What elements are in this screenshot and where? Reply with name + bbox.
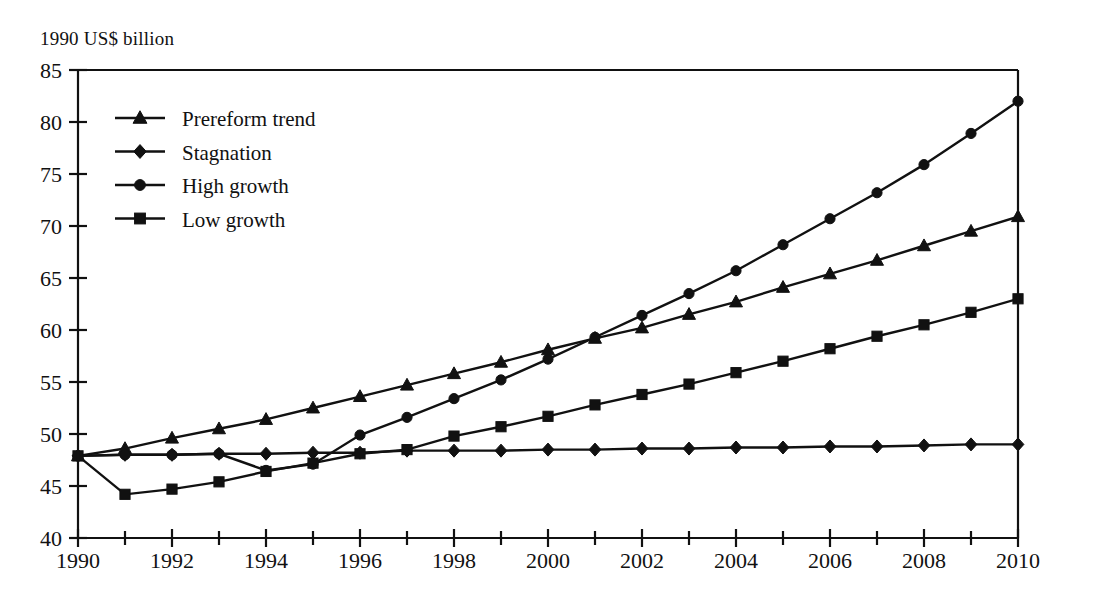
legend-item-prereform-trend[interactable]: Prereform trend — [115, 107, 316, 131]
data-point-square-marker-icon — [355, 449, 365, 459]
legend-label: Prereform trend — [182, 107, 316, 131]
data-point-square-marker-icon — [684, 379, 694, 389]
axes: 4045505560657075808519901992199419961998… — [40, 58, 1040, 573]
y-tick-label: 45 — [40, 474, 62, 499]
data-point-diamond-marker-icon — [683, 442, 695, 455]
data-point-square-marker-icon — [167, 484, 177, 494]
data-point-diamond-marker-icon — [495, 444, 507, 457]
data-point-circle-marker-icon — [449, 394, 459, 404]
y-tick-label: 70 — [40, 214, 62, 239]
x-tick-label: 2004 — [714, 548, 758, 573]
data-point-diamond-marker-icon — [871, 440, 883, 453]
data-point-diamond-marker-icon — [777, 441, 789, 454]
data-point-circle-marker-icon — [214, 449, 224, 459]
data-point-square-marker-icon — [731, 368, 741, 378]
data-point-circle-marker-icon — [731, 266, 741, 276]
data-point-square-marker-icon — [402, 445, 412, 455]
x-tick-label: 2006 — [808, 548, 852, 573]
chart-svg: 4045505560657075808519901992199419961998… — [0, 0, 1097, 602]
data-point-diamond-marker-icon — [448, 444, 460, 457]
data-point-square-marker-icon — [919, 320, 929, 330]
data-point-square-marker-icon — [120, 489, 130, 499]
data-point-circle-marker-icon — [872, 188, 882, 198]
data-point-diamond-marker-icon — [636, 442, 648, 455]
series-low-growth — [73, 294, 1023, 500]
circle-marker-icon — [135, 180, 146, 191]
legend-item-low-growth[interactable]: Low growth — [115, 208, 286, 232]
y-tick-label: 65 — [40, 266, 62, 291]
x-tick-label: 1992 — [150, 548, 194, 573]
square-marker-icon — [135, 213, 146, 224]
data-point-diamond-marker-icon — [918, 439, 930, 452]
legend-label: Low growth — [182, 208, 286, 232]
x-tick-label: 2000 — [526, 548, 570, 573]
data-point-square-marker-icon — [778, 356, 788, 366]
data-point-diamond-marker-icon — [589, 443, 601, 456]
data-point-circle-marker-icon — [120, 450, 130, 460]
data-point-square-marker-icon — [966, 307, 976, 317]
data-point-square-marker-icon — [825, 344, 835, 354]
data-point-square-marker-icon — [308, 458, 318, 468]
x-tick-label: 2008 — [902, 548, 946, 573]
x-tick-label: 2010 — [996, 548, 1040, 573]
legend-item-stagnation[interactable]: Stagnation — [115, 141, 272, 165]
data-point-circle-marker-icon — [167, 450, 177, 460]
data-point-diamond-marker-icon — [965, 438, 977, 451]
data-point-square-marker-icon — [872, 331, 882, 341]
data-point-circle-marker-icon — [825, 214, 835, 224]
y-tick-label: 55 — [40, 370, 62, 395]
data-point-diamond-marker-icon — [260, 447, 272, 460]
data-point-diamond-marker-icon — [730, 441, 742, 454]
legend-item-high-growth[interactable]: High growth — [115, 174, 289, 198]
data-point-diamond-marker-icon — [307, 446, 319, 459]
legend-label: Stagnation — [182, 141, 272, 165]
data-point-circle-marker-icon — [966, 128, 976, 138]
x-tick-label: 1990 — [56, 548, 100, 573]
y-tick-label: 75 — [40, 162, 62, 187]
data-point-square-marker-icon — [590, 400, 600, 410]
legend-label: High growth — [182, 174, 289, 198]
data-point-circle-marker-icon — [496, 375, 506, 385]
y-tick-label: 50 — [40, 422, 62, 447]
data-point-circle-marker-icon — [637, 310, 647, 320]
data-point-circle-marker-icon — [402, 412, 412, 422]
chart-container: 1990 US$ billion 40455055606570758085199… — [0, 0, 1097, 602]
series-line — [78, 299, 1018, 495]
data-point-square-marker-icon — [496, 422, 506, 432]
data-point-diamond-marker-icon — [542, 443, 554, 456]
data-point-circle-marker-icon — [684, 289, 694, 299]
data-point-square-marker-icon — [214, 477, 224, 487]
data-point-circle-marker-icon — [543, 354, 553, 364]
x-tick-label: 1996 — [338, 548, 382, 573]
data-point-square-marker-icon — [261, 466, 271, 476]
x-tick-label: 1998 — [432, 548, 476, 573]
y-tick-label: 80 — [40, 110, 62, 135]
data-point-diamond-marker-icon — [824, 440, 836, 453]
chart-legend: Prereform trendStagnationHigh growthLow … — [115, 107, 316, 232]
data-point-square-marker-icon — [543, 411, 553, 421]
x-tick-label: 1994 — [244, 548, 288, 573]
data-point-square-marker-icon — [637, 389, 647, 399]
data-point-circle-marker-icon — [919, 160, 929, 170]
x-tick-label: 2002 — [620, 548, 664, 573]
data-point-circle-marker-icon — [778, 240, 788, 250]
data-point-square-marker-icon — [449, 431, 459, 441]
data-point-circle-marker-icon — [355, 430, 365, 440]
data-point-circle-marker-icon — [590, 332, 600, 342]
diamond-marker-icon — [134, 145, 147, 159]
y-tick-label: 60 — [40, 318, 62, 343]
y-tick-label: 85 — [40, 58, 62, 83]
